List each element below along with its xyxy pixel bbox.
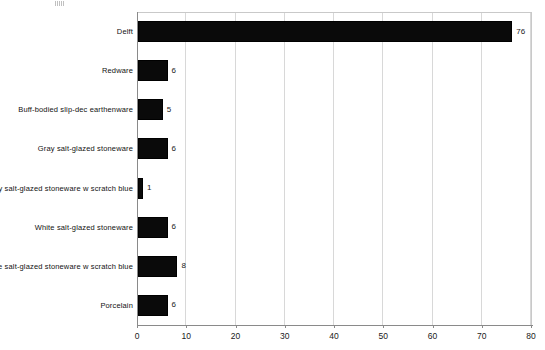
x-tick-mark <box>285 325 286 328</box>
bar-chart: DelftRedwareBuff-bodied slip-dec earthen… <box>0 0 545 350</box>
bar <box>138 60 168 81</box>
bar-value-label: 6 <box>172 67 176 75</box>
bar <box>138 178 143 199</box>
x-tick-label: 0 <box>135 332 140 341</box>
x-tick-label: 40 <box>329 332 338 341</box>
bar-value-label: 6 <box>172 145 176 153</box>
x-axis-tick-labels: 01020304050607080 <box>137 328 533 346</box>
category-label: Gray salt-glazed stoneware <box>38 129 133 168</box>
x-tick-mark <box>334 325 335 328</box>
x-tick-mark <box>186 325 187 328</box>
bar-value-label: 6 <box>172 301 176 309</box>
bar-row: 1 <box>138 169 151 208</box>
bar-row: 5 <box>138 90 171 129</box>
bar-row: 76 <box>138 12 525 51</box>
bar-row: 6 <box>138 129 176 168</box>
category-label: Porcelain <box>100 286 133 325</box>
bar <box>138 99 163 120</box>
x-tick-mark <box>433 325 434 328</box>
x-tick-label: 10 <box>182 332 191 341</box>
bar-value-label: 76 <box>516 28 525 36</box>
x-tick-label: 50 <box>379 332 388 341</box>
category-label: Buff-bodied slip-dec earthenware <box>18 90 133 129</box>
x-tick-mark <box>482 325 483 328</box>
clipped-header-artifact <box>55 1 64 6</box>
category-label: Redware <box>102 51 133 90</box>
bar-row: 6 <box>138 208 176 247</box>
bar <box>138 295 168 316</box>
x-axis-line <box>137 325 533 326</box>
x-tick-label: 80 <box>526 332 535 341</box>
x-tick-mark <box>383 325 384 328</box>
category-label: White salt-glazed stoneware w scratch bl… <box>0 247 133 286</box>
x-tick-label: 60 <box>428 332 437 341</box>
bar <box>138 256 177 277</box>
category-axis-labels: DelftRedwareBuff-bodied slip-dec earthen… <box>0 12 133 325</box>
x-tick-label: 70 <box>477 332 486 341</box>
category-label: White salt-glazed stoneware <box>35 208 133 247</box>
bar-value-label: 8 <box>181 262 185 270</box>
bar-value-label: 6 <box>172 223 176 231</box>
x-tick-label: 20 <box>231 332 240 341</box>
bar-value-label: 5 <box>167 106 171 114</box>
x-tick-mark <box>531 325 532 328</box>
bar-row: 8 <box>138 247 186 286</box>
bar-row: 6 <box>138 51 176 90</box>
category-label: Gray salt-glazed stoneware w scratch blu… <box>0 169 133 208</box>
bar-row: 6 <box>138 286 176 325</box>
x-tick-label: 30 <box>280 332 289 341</box>
x-tick-mark <box>236 325 237 328</box>
bar-value-label: 1 <box>147 184 151 192</box>
x-tick-mark <box>137 325 138 328</box>
bar <box>138 138 168 159</box>
bars-layer: 766561686 <box>138 12 532 325</box>
bar <box>138 21 512 42</box>
bar <box>138 217 168 238</box>
category-label: Delft <box>117 12 133 51</box>
